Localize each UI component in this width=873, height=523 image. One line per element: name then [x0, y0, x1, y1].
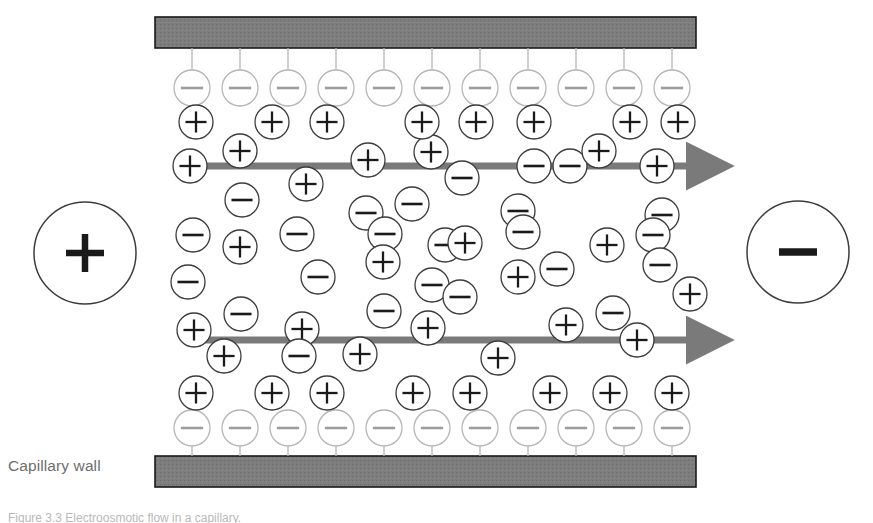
bulk-ion-33	[367, 294, 401, 328]
surface-ion-bottom-0	[174, 410, 210, 446]
bulk-ion-17	[280, 217, 314, 251]
electrode-anode	[34, 202, 136, 304]
bulk-ion-9	[289, 167, 323, 201]
top-counter-ion-row-7	[661, 105, 695, 139]
bulk-ion-23	[636, 218, 670, 252]
bottom-counter-ion-row-5	[533, 376, 567, 410]
bulk-ion-21	[506, 215, 540, 249]
bulk-ion-16	[223, 230, 257, 264]
surface-ion-bottom-10	[654, 410, 690, 446]
surface-ion-top-1	[222, 70, 258, 106]
surface-ion-bottom-6	[462, 410, 498, 446]
top-capillary-wall	[155, 17, 696, 48]
surface-ion-top-9	[606, 70, 642, 106]
surface-ion-bottom-8	[558, 410, 594, 446]
surface-ion-bottom-3	[318, 410, 354, 446]
bulk-ion-12	[395, 187, 429, 221]
bottom-counter-ion-row-7	[655, 376, 689, 410]
surface-ion-bottom-1	[222, 410, 258, 446]
bulk-ion-41	[207, 339, 241, 373]
surface-ion-top-8	[558, 70, 594, 106]
figure-caption: Figure 3.3 Electroosmotic flow in a capi…	[8, 511, 241, 523]
top-counter-ion-row-1	[255, 105, 289, 139]
bulk-ion-43	[343, 337, 377, 371]
bottom-capillary-wall	[155, 456, 696, 487]
bulk-ion-5	[517, 149, 551, 183]
electrode-cathode	[747, 201, 849, 303]
bottom-counter-ion-row-4	[453, 376, 487, 410]
figure-canvas	[0, 0, 873, 523]
bulk-ion-32	[224, 297, 258, 331]
top-counter-ion-row-5	[517, 105, 551, 139]
capillary-wall-label: Capillary wall	[8, 457, 101, 475]
bulk-ion-22	[590, 228, 624, 262]
surface-ion-bottom-9	[606, 410, 642, 446]
bulk-ion-36	[177, 313, 211, 347]
bulk-ion-2	[351, 143, 385, 177]
bulk-ion-35	[596, 296, 630, 330]
bottom-counter-ion-row-2	[310, 376, 344, 410]
surface-ion-top-4	[366, 70, 402, 106]
top-counter-ion-row-3	[405, 105, 439, 139]
top-counter-ion-row-6	[613, 105, 647, 139]
top-counter-ion-row-0	[179, 105, 213, 139]
surface-ion-bottom-4	[366, 410, 402, 446]
surface-ion-top-0	[174, 70, 210, 106]
bulk-ion-24	[171, 265, 205, 299]
bulk-ion-38	[411, 311, 445, 345]
surface-ion-top-3	[318, 70, 354, 106]
surface-ion-bottom-7	[510, 410, 546, 446]
surface-ion-bottom-5	[414, 410, 450, 446]
bulk-ion-29	[540, 252, 574, 286]
bulk-ion-10	[225, 183, 259, 217]
bulk-ion-39	[549, 308, 583, 342]
surface-ion-top-6	[462, 70, 498, 106]
top-counter-ion-row-2	[310, 105, 344, 139]
bulk-ion-25	[301, 260, 335, 294]
bottom-counter-ion-row-0	[179, 376, 213, 410]
bulk-ion-28	[501, 260, 535, 294]
surface-ion-top-10	[654, 70, 690, 106]
bottom-counter-ion-row-6	[593, 376, 627, 410]
surface-ion-bottom-2	[270, 410, 306, 446]
top-counter-ion-row-4	[459, 105, 493, 139]
bulk-ion-0	[173, 149, 207, 183]
bulk-ion-26	[366, 245, 400, 279]
bulk-ion-20	[448, 226, 482, 260]
bulk-ion-30	[643, 248, 677, 282]
bottom-counter-ion-row-1	[255, 376, 289, 410]
bulk-ion-44	[481, 341, 515, 375]
bulk-ion-4	[445, 161, 479, 195]
surface-ion-top-7	[510, 70, 546, 106]
bulk-ion-3	[414, 135, 448, 169]
bulk-ion-40	[620, 323, 654, 357]
surface-ion-top-5	[414, 70, 450, 106]
bulk-ion-15	[176, 218, 210, 252]
bulk-ion-8	[640, 149, 674, 183]
bulk-ion-34	[443, 280, 477, 314]
bulk-ion-31	[673, 277, 707, 311]
surface-ion-top-2	[270, 70, 306, 106]
bulk-ion-7	[582, 134, 616, 168]
bottom-counter-ion-row-3	[396, 376, 430, 410]
electroosmotic-flow-figure: Capillary wall Figure 3.3 Electroosmotic…	[0, 0, 873, 523]
bulk-ion-42	[282, 339, 316, 373]
bulk-ion-1	[223, 134, 257, 168]
